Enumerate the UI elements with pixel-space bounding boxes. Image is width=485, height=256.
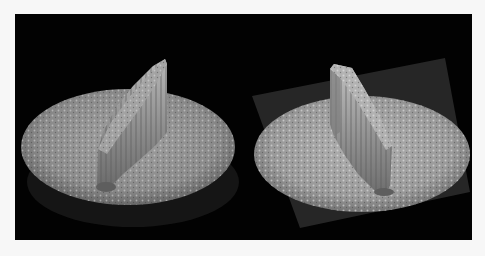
figure-surface-renderings [15, 14, 472, 240]
right-surface-graphic [240, 14, 472, 240]
left-surface-plot [15, 14, 247, 240]
left-surface-graphic [15, 14, 247, 240]
right-surface-plot [240, 14, 472, 240]
